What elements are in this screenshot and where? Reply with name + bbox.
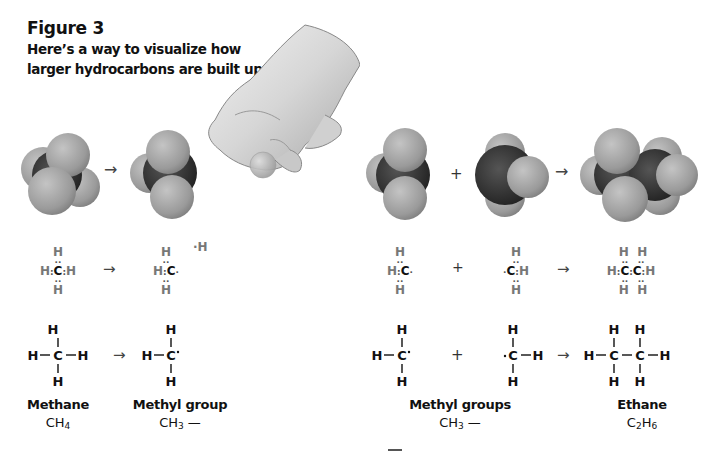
svg-text:H: H (28, 348, 39, 363)
bottom-mark (388, 449, 402, 451)
label-methyl-groups: Methyl groups (400, 396, 520, 414)
svg-text:H: H (48, 322, 59, 337)
lewis-h-left: H (387, 264, 397, 278)
structural-methyl-1: H H C H (372, 322, 411, 389)
svg-text:H: H (533, 348, 544, 363)
svg-text:H: H (508, 374, 519, 389)
lewis-h-left: H (40, 264, 50, 278)
lewis-h-left: H (607, 264, 617, 278)
structural-methane: H H C H H (28, 322, 89, 389)
formula-methyl-groups: CH3 — (400, 414, 520, 435)
formula-methyl-group: CH3 — (125, 414, 235, 435)
lewis-h-bottom: H (498, 284, 534, 297)
arrow-icon: → (555, 162, 568, 181)
structural-ethane: H H H C C H H H (584, 322, 671, 389)
svg-text:C: C (609, 348, 619, 363)
structural-methyl: H H C H (142, 322, 180, 389)
svg-text:H: H (372, 348, 383, 363)
lewis-h-left: H (153, 264, 163, 278)
lewis-h-right: H (66, 264, 76, 278)
lewis-h-bottom: H (382, 284, 418, 297)
lewis-h-right: H (519, 264, 529, 278)
space-filling-models: → + → (0, 115, 711, 230)
methyl-model-left (130, 130, 197, 219)
label-methane: Methane (18, 396, 98, 414)
svg-text:H: H (166, 374, 177, 389)
formula-methane: CH4 (18, 414, 98, 435)
formula-c: C (627, 415, 636, 430)
lewis-h-bottom: H (38, 284, 78, 297)
methane-model (21, 133, 100, 215)
svg-text:H: H (660, 348, 671, 363)
svg-text:H: H (609, 322, 620, 337)
svg-text:H: H (635, 322, 646, 337)
lewis-h-bottom: H (148, 284, 184, 297)
lewis-h-right: H (645, 264, 655, 278)
structural-formulas: H H C H H → H H C H H H C H + H C (0, 318, 711, 393)
formula-tail: — (464, 415, 481, 430)
svg-text:→: → (557, 346, 570, 364)
svg-text:+: + (451, 346, 464, 364)
svg-text:C: C (397, 348, 407, 363)
plus-icon: + (450, 165, 463, 183)
lewis-h-bottom-1: H (619, 283, 629, 297)
formula-ethane: C2H6 (597, 414, 687, 435)
svg-text:H: H (508, 322, 519, 337)
arrow-icon: → (104, 160, 117, 179)
formula-tail: — (184, 415, 201, 430)
arrow-icon: → (557, 260, 570, 278)
svg-text:H: H (53, 374, 64, 389)
lewis-methyl-1: H ·· H:C· ·· H (382, 246, 418, 297)
label-methyl-group: Methyl group (125, 396, 235, 414)
formula-h-sub: 6 (651, 421, 657, 431)
figure-title: Figure 3 (27, 18, 104, 38)
svg-text:H: H (142, 348, 153, 363)
lewis-h-bottom-2: H (637, 283, 647, 297)
label-ethane: Ethane (597, 396, 687, 414)
arrow-icon: → (103, 260, 116, 278)
svg-text:H: H (635, 374, 646, 389)
radical-dot: · (410, 267, 413, 277)
lewis-ethane: H H ·· ·· H:C:C:H ·· ·· H H (601, 246, 661, 297)
svg-text:H: H (397, 322, 408, 337)
svg-text:C: C (635, 348, 645, 363)
formula-base: CH (159, 415, 178, 430)
formula-base: CH (439, 415, 458, 430)
svg-text:H: H (78, 348, 89, 363)
svg-text:H: H (609, 374, 620, 389)
ethane-model (580, 128, 698, 222)
structural-methyl-2: H C H H (504, 322, 544, 389)
radical-dot: · (176, 267, 179, 277)
methyl-model-2 (475, 133, 549, 217)
svg-text:C: C (166, 348, 176, 363)
formula-h: H (642, 415, 652, 430)
methyl-model-1 (366, 128, 430, 220)
svg-text:H: H (584, 348, 595, 363)
svg-text:→: → (113, 346, 126, 364)
lewis-methyl-2: H ·· ·C:H ·· H (498, 246, 534, 297)
plus-icon: + (452, 259, 464, 275)
svg-text:C: C (53, 348, 63, 363)
svg-text:H: H (166, 322, 177, 337)
svg-text:C: C (508, 348, 518, 363)
svg-text:H: H (397, 374, 408, 389)
lewis-methane: H ·· H:C:H ·· H (38, 246, 78, 297)
lewis-methyl: H ·· H:C· ·· H (148, 246, 184, 297)
formula-base: CH (46, 415, 65, 430)
formula-sub: 4 (65, 421, 71, 431)
hydrogen-radical: ·H (193, 241, 208, 254)
